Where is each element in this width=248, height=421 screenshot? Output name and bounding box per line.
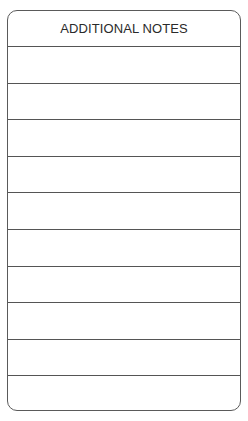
note-line-6[interactable]	[8, 230, 240, 267]
note-line-9[interactable]	[8, 340, 240, 377]
note-line-2[interactable]	[8, 84, 240, 121]
note-line-10[interactable]	[8, 376, 240, 413]
note-line-5[interactable]	[8, 193, 240, 230]
note-line-1[interactable]	[8, 47, 240, 84]
note-line-3[interactable]	[8, 120, 240, 157]
additional-notes-box: ADDITIONAL NOTES	[7, 10, 241, 411]
note-line-7[interactable]	[8, 267, 240, 304]
notes-title: ADDITIONAL NOTES	[8, 11, 240, 47]
note-line-4[interactable]	[8, 157, 240, 194]
note-line-8[interactable]	[8, 303, 240, 340]
